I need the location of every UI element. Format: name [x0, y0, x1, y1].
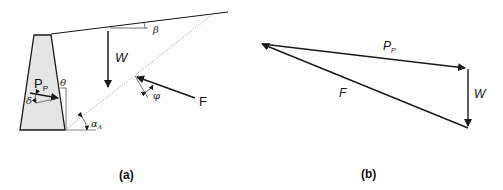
panel-b: PP W F (b) — [262, 39, 487, 181]
resultant-arrow — [137, 77, 195, 98]
beta-arc — [144, 23, 145, 28]
backfill-surface — [51, 12, 228, 34]
delta-label: δ — [26, 95, 32, 106]
phi-arc — [146, 85, 153, 92]
passive-force-vector-label: PP — [383, 39, 396, 54]
resultant-vector-label: F — [339, 86, 347, 100]
alpha-arc — [82, 117, 87, 130]
panel-a-caption: (a) — [119, 168, 134, 182]
panel-a: β W θ PP δ φ F αA (a) — [20, 12, 228, 182]
phi-label: φ — [153, 90, 160, 101]
beta-label: β — [152, 24, 159, 35]
force-diagram: β W θ PP δ φ F αA (a) PP W F (b) — [0, 0, 503, 190]
theta-label: θ — [60, 77, 66, 88]
panel-b-caption: (b) — [361, 167, 376, 181]
alpha-label: αA — [91, 118, 103, 130]
resultant-label: F — [199, 94, 207, 109]
weight-vector-label: W — [474, 87, 487, 101]
weight-label: W — [115, 50, 129, 65]
failure-plane — [65, 14, 213, 130]
